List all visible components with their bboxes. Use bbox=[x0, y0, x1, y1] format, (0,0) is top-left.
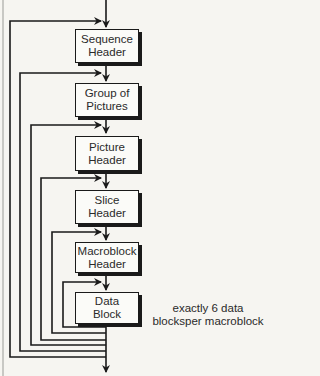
data-block-annotation: exactly 6 data blocksper macroblock bbox=[152, 302, 264, 328]
box-label: Header bbox=[88, 258, 126, 271]
slice-header-box: Slice Header bbox=[75, 190, 139, 224]
box-label: Pictures bbox=[86, 100, 128, 113]
box-label: Slice bbox=[95, 194, 120, 207]
picture-header-box: Picture Header bbox=[75, 136, 139, 171]
box-label: Header bbox=[88, 46, 126, 59]
box-label: Sequence bbox=[81, 33, 133, 46]
box-label: Macroblock bbox=[78, 245, 137, 258]
annotation-line: exactly 6 data bbox=[152, 302, 264, 315]
data-block-box: Data Block bbox=[75, 292, 139, 324]
box-label: Data bbox=[95, 295, 119, 308]
box-label: Group of bbox=[85, 87, 130, 100]
sequence-header-box: Sequence Header bbox=[75, 29, 139, 63]
box-label: Header bbox=[88, 154, 126, 167]
box-label: Header bbox=[88, 207, 126, 220]
box-label: Picture bbox=[89, 141, 125, 154]
group-of-pictures-box: Group of Pictures bbox=[75, 83, 139, 117]
box-label: Block bbox=[93, 308, 121, 321]
annotation-line: blocksper macroblock bbox=[152, 315, 264, 328]
macroblock-header-box: Macroblock Header bbox=[75, 242, 139, 273]
